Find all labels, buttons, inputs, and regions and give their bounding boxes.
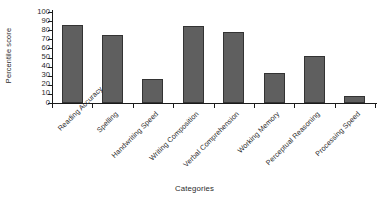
bar — [223, 32, 244, 103]
y-tick-label: 80 — [42, 25, 50, 35]
y-tick-label: 20 — [42, 79, 50, 89]
x-category-label: Reading Accuracy — [56, 109, 79, 132]
x-category-label: Handwriting Speed — [80, 109, 161, 190]
y-tick-label: 30 — [42, 70, 50, 80]
y-tick-label: 10 — [42, 88, 50, 98]
bar — [142, 79, 163, 103]
bar — [304, 56, 325, 103]
bar — [62, 25, 83, 103]
y-tick-label: 60 — [42, 43, 50, 53]
y-tick-label: 70 — [42, 34, 50, 44]
y-axis-title: Percentile score — [0, 0, 18, 110]
y-axis-line — [52, 10, 53, 103]
x-tick-mark — [375, 104, 376, 108]
y-tick-label: 40 — [42, 61, 50, 71]
bar — [183, 26, 204, 103]
bar — [264, 73, 285, 103]
y-tick-label: 50 — [42, 52, 50, 62]
y-tick-label: 100 — [37, 7, 50, 17]
y-tick-label: 0 — [46, 98, 50, 108]
y-tick-label: 90 — [42, 16, 50, 26]
x-axis-category-labels: Reading AccuracySpellingHandwriting Spee… — [52, 108, 375, 178]
y-axis-title-text: Percentile score — [5, 27, 14, 82]
chart-figure: Percentile score 0102030405060708090100 … — [0, 0, 389, 205]
x-axis-title: Categories — [0, 184, 389, 193]
bar — [102, 35, 123, 103]
bar — [344, 96, 365, 103]
